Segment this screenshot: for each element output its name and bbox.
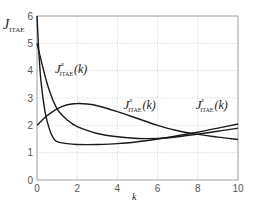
x-tick-label: 8 xyxy=(195,183,201,194)
y-tick-label: 4 xyxy=(27,65,33,76)
grid-lines xyxy=(37,16,238,180)
axis-ticks: 02468100123456 xyxy=(27,11,244,195)
y-axis-label: JITAE xyxy=(3,17,25,34)
x-tick-label: 6 xyxy=(155,183,161,194)
x-tick-label: 10 xyxy=(232,183,244,194)
curve-label-2: JeITAE(k) xyxy=(196,97,228,113)
y-tick-label: 0 xyxy=(27,175,33,186)
series-line-1 xyxy=(37,43,238,138)
y-tick-label: 6 xyxy=(27,11,33,22)
y-tick-label: 2 xyxy=(27,120,33,131)
x-tick-label: 2 xyxy=(74,183,80,194)
curve-label-0: JaITAE(k) xyxy=(55,61,87,77)
curve-labels: JaITAE(k)JuITAE(k)JeITAE(k) xyxy=(55,61,228,113)
y-tick-label: 5 xyxy=(27,38,33,49)
x-axis-label: k xyxy=(132,191,137,202)
y-tick-label: 3 xyxy=(27,93,33,104)
y-tick-label: 1 xyxy=(27,147,33,158)
x-tick-label: 4 xyxy=(115,183,121,194)
itae-chart: 02468100123456 JaITAE(k)JuITAE(k)JeITAE(… xyxy=(0,0,254,206)
curve-label-1: JuITAE(k) xyxy=(123,97,155,113)
x-tick-label: 0 xyxy=(34,183,40,194)
